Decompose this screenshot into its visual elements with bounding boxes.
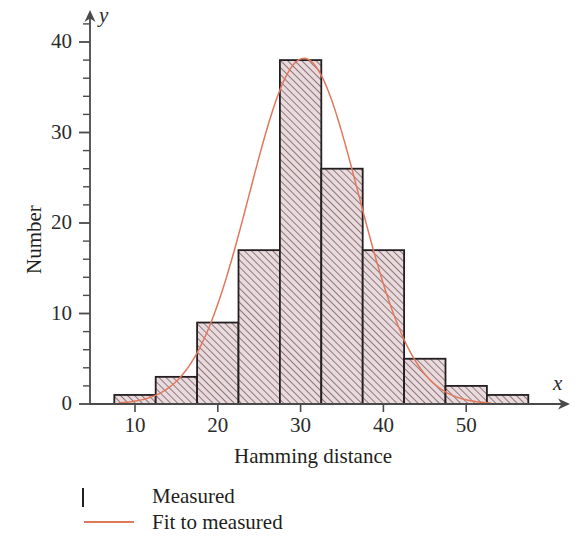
histogram-bar [280,60,321,404]
y-axis-title: Number [22,205,47,274]
histogram-bar [239,250,280,404]
histogram-bar [487,395,528,404]
x-axis-letter: x [553,371,562,396]
fit-line-swatch-icon [82,515,136,529]
x-axis-ticks [135,404,466,412]
histogram-bars [114,60,528,404]
y-axis [85,10,96,404]
histogram-figure: 010203040 1020304050 y x Hamming distanc… [0,0,587,537]
x-tick-label: 40 [361,415,405,436]
chart-legend: Measured Fit to measured [82,483,412,535]
legend-item-measured: Measured [82,483,412,509]
measured-swatch-icon [82,489,136,503]
y-tick-label: 0 [28,393,72,414]
legend-label-fit: Fit to measured [152,510,283,535]
x-tick-label: 50 [444,415,488,436]
legend-item-fit: Fit to measured [82,509,412,535]
histogram-bar [404,359,445,404]
x-tick-label: 10 [113,415,157,436]
x-axis-title: Hamming distance [234,444,392,469]
y-tick-label: 40 [28,31,72,52]
y-axis-ticks [79,24,90,404]
x-tick-label: 20 [196,415,240,436]
legend-label-measured: Measured [152,484,235,509]
x-tick-label: 30 [279,415,323,436]
y-axis-letter: y [99,3,108,28]
histogram-bar [197,323,238,404]
y-tick-label: 10 [28,303,72,324]
y-tick-label: 30 [28,122,72,143]
histogram-bar [321,169,362,404]
